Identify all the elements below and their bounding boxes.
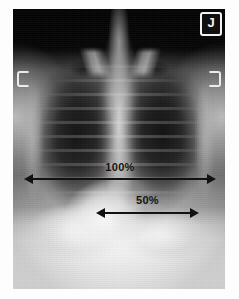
- side-marker-letter: J: [200, 12, 222, 36]
- rib-shadows: [13, 9, 225, 289]
- lateral-ribcage-border: [13, 9, 225, 289]
- cardiac-arrow-right-head: [190, 208, 199, 218]
- film-vignette: [13, 9, 225, 289]
- cardiac-diaphragm-silhouette: [13, 9, 225, 289]
- right-shoulder-soft-tissue: [13, 9, 225, 289]
- lung-apices-shadow: [13, 9, 225, 289]
- cardiac-arrow-line: [103, 212, 192, 214]
- thoracic-arrow-line: [31, 178, 209, 180]
- radiograph-image: J 100% 50%: [13, 9, 225, 289]
- left-shoulder-soft-tissue: [13, 9, 225, 289]
- left-lung-field: [13, 9, 225, 289]
- right-radiopaque-clip: [208, 71, 221, 87]
- cardiac-width-label: 50%: [96, 194, 199, 206]
- mediastinum-spine-shadow: [13, 9, 225, 289]
- right-lung-field: [13, 9, 225, 289]
- thoracic-width-label: 100%: [24, 161, 216, 173]
- clavicles-shadow: [13, 9, 225, 289]
- xray-viewer: J 100% 50%: [0, 0, 239, 299]
- film-grain: [13, 9, 225, 289]
- radiograph-base-layer: [13, 9, 225, 289]
- thoracic-arrow-right-head: [207, 174, 216, 184]
- left-radiopaque-clip: [17, 71, 30, 87]
